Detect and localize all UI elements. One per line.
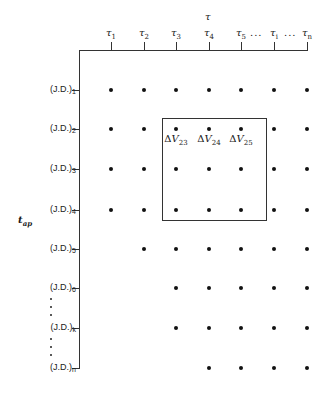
row-label: (J.D.)2 xyxy=(50,123,76,135)
row-label-base: (J.D.) xyxy=(51,322,73,332)
row-label-sub: k xyxy=(73,326,77,333)
row-label: (J.D.)n xyxy=(50,362,76,374)
top-axis-title: τ xyxy=(205,11,211,22)
column-label-sub: 4 xyxy=(210,33,214,41)
grid-dot xyxy=(174,326,178,330)
top-axis-line xyxy=(79,50,308,51)
grid-dot xyxy=(272,366,276,370)
grid-dot xyxy=(109,127,113,131)
row-label-base: (J.D.) xyxy=(50,282,72,292)
row-label-base: (J.D.) xyxy=(50,243,72,253)
column-ellipsis: ... xyxy=(284,27,297,38)
grid-dot xyxy=(305,208,309,212)
grid-dot xyxy=(207,366,211,370)
delta-v-label: ΔV24 xyxy=(197,133,220,147)
grid-dot xyxy=(142,88,146,92)
grid-dot xyxy=(305,167,309,171)
ellipsis-dot xyxy=(50,298,52,300)
ellipsis-dot xyxy=(50,354,52,356)
delta-v-sub: 23 xyxy=(179,139,188,147)
column-label-sub: 3 xyxy=(177,33,181,41)
row-label-sub: 1 xyxy=(72,88,76,95)
grid-dot xyxy=(305,247,309,251)
row-label-sub: 4 xyxy=(72,208,76,215)
row-label-base: (J.D.) xyxy=(50,163,72,173)
row-label: (J.D.)6 xyxy=(50,282,76,294)
grid-dot xyxy=(207,88,211,92)
grid-dot xyxy=(109,88,113,92)
grid-dot xyxy=(305,326,309,330)
column-label: τn xyxy=(302,27,312,41)
grid-dot xyxy=(272,326,276,330)
column-label-sub: 1 xyxy=(112,33,116,41)
grid-dot xyxy=(207,247,211,251)
left-axis-title: tap xyxy=(18,214,32,228)
ellipsis-dot xyxy=(50,314,52,316)
column-label-sub: 2 xyxy=(145,33,149,41)
row-label: (J.D.)k xyxy=(51,322,77,334)
grid-dot xyxy=(207,326,211,330)
column-label-sub: 5 xyxy=(242,33,246,41)
row-label-sub: 3 xyxy=(72,167,76,174)
row-label: (J.D.)3 xyxy=(50,163,76,175)
grid-dot xyxy=(239,247,243,251)
grid-dot xyxy=(305,366,309,370)
grid-dot xyxy=(142,127,146,131)
row-label-base: (J.D.) xyxy=(50,123,72,133)
delta-v-label: ΔV25 xyxy=(229,133,252,147)
row-label-sub: 2 xyxy=(72,127,76,134)
grid-dot xyxy=(272,208,276,212)
grid-dot xyxy=(239,286,243,290)
column-tick xyxy=(241,42,242,50)
column-label-sub: n xyxy=(308,33,313,41)
row-label: (J.D.)1 xyxy=(50,84,76,96)
column-tick xyxy=(111,42,112,50)
delta-v-sub: 24 xyxy=(212,139,221,147)
ellipsis-dot xyxy=(50,338,52,340)
grid-dot xyxy=(207,286,211,290)
grid-dot xyxy=(239,88,243,92)
row-label-sub: 5 xyxy=(72,247,76,254)
left-axis-line xyxy=(79,50,80,369)
column-label: τ2 xyxy=(139,27,149,41)
column-label: τ3 xyxy=(171,27,181,41)
grid-dot xyxy=(142,208,146,212)
delta-v-label: ΔV23 xyxy=(164,133,187,147)
ellipsis-dot xyxy=(50,346,52,348)
grid-dot xyxy=(272,167,276,171)
grid-dot xyxy=(174,286,178,290)
row-label-sub: n xyxy=(72,366,76,373)
column-tick xyxy=(144,42,145,50)
row-label: (J.D.)5 xyxy=(50,243,76,255)
row-label-base: (J.D.) xyxy=(50,84,72,94)
grid-dot xyxy=(239,366,243,370)
grid-dot xyxy=(109,208,113,212)
column-label-sub: i xyxy=(276,33,278,41)
row-label: (J.D.)4 xyxy=(50,204,76,216)
column-tick xyxy=(274,42,275,50)
grid-dot xyxy=(272,247,276,251)
column-label: τ4 xyxy=(204,27,214,41)
grid-dot xyxy=(272,286,276,290)
column-tick xyxy=(307,42,308,50)
grid-dot xyxy=(305,88,309,92)
left-axis-title-sub: ap xyxy=(23,219,32,228)
delta-v-sub: 25 xyxy=(244,139,253,147)
grid-dot xyxy=(239,326,243,330)
column-label: τi xyxy=(270,27,278,41)
row-label-base: (J.D.) xyxy=(50,204,72,214)
grid-dot xyxy=(174,247,178,251)
ellipsis-dot xyxy=(50,306,52,308)
grid-dot xyxy=(142,247,146,251)
grid-dot xyxy=(272,127,276,131)
grid-dot xyxy=(272,88,276,92)
grid-dot xyxy=(142,167,146,171)
column-label: τ5 xyxy=(236,27,246,41)
column-tick xyxy=(209,42,210,50)
column-label: τ1 xyxy=(106,27,116,41)
row-label-sub: 6 xyxy=(72,286,76,293)
grid-dot xyxy=(305,286,309,290)
column-ellipsis: ... xyxy=(250,27,263,38)
grid-dot xyxy=(109,167,113,171)
grid-dot xyxy=(174,88,178,92)
